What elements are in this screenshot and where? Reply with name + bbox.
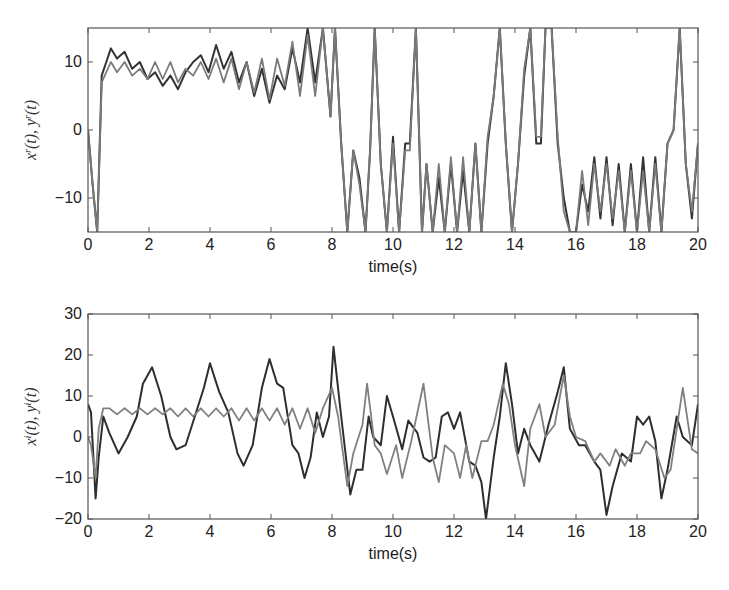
y-axis-label: xr(t), yr(t) <box>22 100 41 161</box>
x-tick-label: 20 <box>689 523 707 540</box>
x-tick-label: 12 <box>445 236 463 253</box>
x-tick-label: 8 <box>328 523 337 540</box>
y-tick-label: −20 <box>55 510 82 527</box>
x-tick-label: 4 <box>206 523 215 540</box>
series-line-y <box>88 376 698 487</box>
x-tick-label: 6 <box>267 236 276 253</box>
bottom-plot: 024681012141618203020100−10−20time(s)xi(… <box>22 305 708 562</box>
x-tick-label: 4 <box>206 236 215 253</box>
y-tick-label: 10 <box>64 53 82 70</box>
series-line-y <box>88 28 698 232</box>
plot-lines <box>88 28 698 232</box>
x-axis-label: time(s) <box>369 545 418 562</box>
x-tick-label: 18 <box>628 236 646 253</box>
x-tick-label: 16 <box>567 523 585 540</box>
x-tick-label: 6 <box>267 523 276 540</box>
x-tick-label: 0 <box>84 236 93 253</box>
axes-frame <box>88 28 698 232</box>
x-axis-label: time(s) <box>369 258 418 275</box>
x-tick-label: 14 <box>506 236 524 253</box>
x-tick-label: 8 <box>328 236 337 253</box>
y-tick-label: 10 <box>64 387 82 404</box>
y-axis-label: xi(t), yi(t) <box>22 388 41 447</box>
x-tick-label: 18 <box>628 523 646 540</box>
x-tick-label: 10 <box>384 236 402 253</box>
top-plot: 02468101214161820100−10time(s)xr(t), yr(… <box>22 28 708 275</box>
y-tick-label: 30 <box>64 305 82 322</box>
x-tick-label: 12 <box>445 523 463 540</box>
x-tick-label: 2 <box>145 236 154 253</box>
x-tick-label: 0 <box>84 523 93 540</box>
x-tick-label: 2 <box>145 523 154 540</box>
y-tick-label: −10 <box>55 189 82 206</box>
series-line-x <box>88 28 698 232</box>
y-tick-label: 20 <box>64 346 82 363</box>
plot-lines <box>88 347 698 519</box>
y-tick-label: −10 <box>55 469 82 486</box>
x-tick-label: 20 <box>689 236 707 253</box>
x-tick-label: 16 <box>567 236 585 253</box>
y-tick-label: 0 <box>73 428 82 445</box>
x-tick-label: 10 <box>384 523 402 540</box>
series-line-x <box>88 347 698 519</box>
y-tick-label: 0 <box>73 121 82 138</box>
figure: 02468101214161820100−10time(s)xr(t), yr(… <box>0 0 729 590</box>
x-tick-label: 14 <box>506 523 524 540</box>
